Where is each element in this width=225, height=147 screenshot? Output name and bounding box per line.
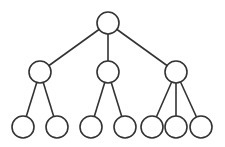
tree-node-b — [97, 61, 119, 83]
edge-root-a — [40, 23, 108, 72]
tree-node-c2 — [165, 116, 187, 138]
tree-node-c1 — [141, 116, 163, 138]
tree-nodes — [12, 12, 212, 138]
tree-diagram — [0, 0, 225, 147]
tree-node-b1 — [80, 116, 102, 138]
tree-node-a2 — [46, 116, 68, 138]
edge-root-c — [108, 23, 176, 72]
tree-node-b2 — [114, 116, 136, 138]
tree-node-a1 — [12, 116, 34, 138]
tree-node-c — [165, 61, 187, 83]
tree-node-a — [29, 61, 51, 83]
tree-node-root — [97, 12, 119, 34]
tree-node-c3 — [190, 116, 212, 138]
